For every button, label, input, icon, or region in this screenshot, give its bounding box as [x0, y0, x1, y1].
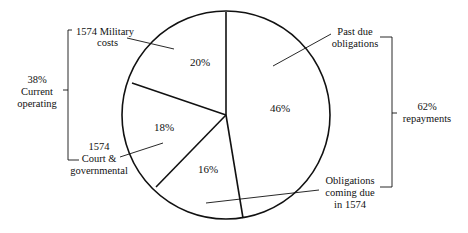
past-due-label-line2: obligations	[332, 38, 379, 49]
left-group-bracket	[68, 30, 79, 160]
military-label-line2: costs	[97, 37, 118, 48]
right-group-label-line1: repayments	[403, 113, 451, 124]
past-due-label-line1: Past due	[337, 26, 373, 37]
left-group-pct: 38%	[27, 74, 47, 85]
coming-due-label-line1: Obligations	[326, 175, 375, 186]
court-pct: 18%	[154, 121, 174, 133]
coming-due-label-line3: in 1574	[334, 199, 367, 210]
past-due-pct: 46%	[270, 102, 290, 114]
left-group-label-line1: Current	[21, 86, 53, 97]
military-label-line1: 1574 Military	[76, 26, 135, 37]
coming-due-pct: 16%	[198, 163, 218, 175]
court-label-line2: Court &	[82, 153, 117, 164]
court-label-line3: governmental	[70, 165, 128, 176]
left-group-label-line2: operating	[17, 98, 57, 109]
right-group-bracket	[380, 37, 392, 187]
military-pct: 20%	[190, 56, 210, 68]
right-group-pct: 62%	[417, 101, 437, 112]
pie-chart: 20% 18% 16% 46% 1574 Military costs 1574…	[0, 0, 468, 233]
coming-due-label-line2: coming due	[325, 187, 375, 198]
court-label-line1: 1574	[89, 141, 111, 152]
